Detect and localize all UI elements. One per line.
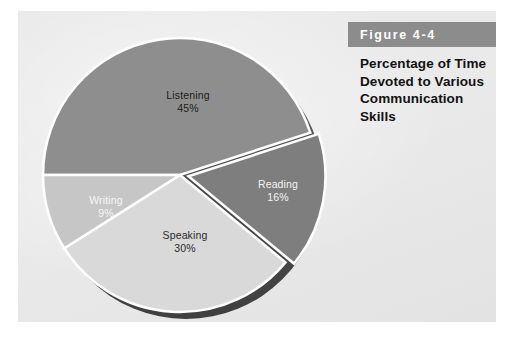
- figure-title: Percentage of Time Devoted to Various Co…: [360, 55, 492, 125]
- pie-chart-svg: [18, 11, 348, 322]
- figure-caption-block: Figure 4-4 Percentage of Time Devoted to…: [348, 11, 496, 322]
- figure-number-label: Figure 4-4: [360, 28, 496, 42]
- figure-panel: Listening 45% Reading 16% Writing 9% Spe…: [18, 11, 496, 322]
- pie-chart: Listening 45% Reading 16% Writing 9% Spe…: [18, 11, 348, 322]
